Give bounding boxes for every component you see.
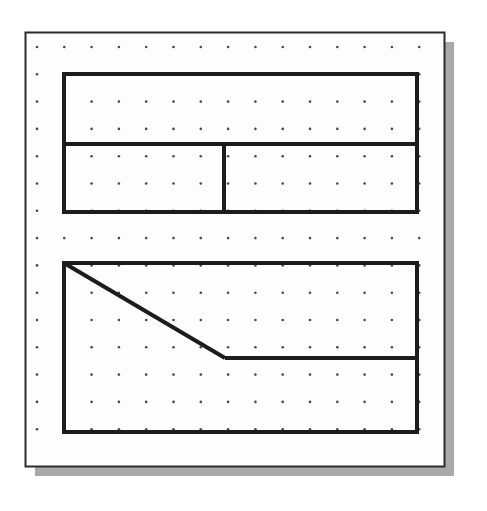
grid-dot (200, 373, 203, 376)
grid-dot (254, 237, 257, 240)
grid-dot (254, 100, 257, 103)
grid-dot (172, 46, 175, 49)
grid-dot (36, 346, 39, 349)
grid-dot (363, 319, 366, 322)
grid-dot (254, 182, 257, 185)
grid-dot (118, 182, 121, 185)
grid-dot (281, 346, 284, 349)
grid-dot (227, 291, 230, 294)
grid-dot (90, 155, 93, 158)
grid-dot (200, 237, 203, 240)
paper-sheet (26, 33, 445, 467)
grid-dot (36, 237, 39, 240)
grid-dot (418, 237, 421, 240)
grid-dot (227, 401, 230, 404)
grid-dot (363, 237, 366, 240)
grid-dot (391, 401, 394, 404)
grid-dot (391, 128, 394, 131)
grid-dot (145, 373, 148, 376)
grid-dot (254, 291, 257, 294)
grid-dot (363, 182, 366, 185)
grid-dot (145, 100, 148, 103)
paper-border (26, 33, 445, 467)
grid-dot (145, 155, 148, 158)
grid-dot (63, 46, 66, 49)
grid-dot (36, 291, 39, 294)
grid-dot (336, 373, 339, 376)
grid-dot (172, 100, 175, 103)
grid-dot (90, 100, 93, 103)
grid-dot (309, 291, 312, 294)
grid-dot (336, 128, 339, 131)
grid-dot (363, 155, 366, 158)
grid-dot (172, 128, 175, 131)
grid-dot (200, 319, 203, 322)
grid-dot (309, 155, 312, 158)
grid-dot (309, 128, 312, 131)
grid-dot (90, 346, 93, 349)
grid-dot (118, 46, 121, 49)
grid-dot (309, 401, 312, 404)
grid-dot (145, 319, 148, 322)
grid-dot (418, 46, 421, 49)
grid-dot (363, 401, 366, 404)
grid-dot (309, 237, 312, 240)
grid-dot (90, 182, 93, 185)
grid-dot (172, 155, 175, 158)
grid-dot (309, 319, 312, 322)
grid-dot (118, 100, 121, 103)
grid-dot (391, 46, 394, 49)
grid-dot (172, 182, 175, 185)
grid-dot (145, 291, 148, 294)
grid-dot (145, 401, 148, 404)
figure-stage (0, 0, 487, 511)
grid-dot (336, 46, 339, 49)
grid-dot (227, 237, 230, 240)
grid-dot (281, 155, 284, 158)
grid-dot (200, 291, 203, 294)
grid-dot (118, 319, 121, 322)
grid-dot (254, 373, 257, 376)
grid-dot (36, 46, 39, 49)
grid-dot (309, 182, 312, 185)
grid-dot (281, 291, 284, 294)
grid-dot (227, 319, 230, 322)
grid-dot (336, 401, 339, 404)
grid-dot (281, 182, 284, 185)
grid-dot (254, 401, 257, 404)
grid-dot (254, 319, 257, 322)
grid-dot (336, 237, 339, 240)
grid-dot (363, 373, 366, 376)
grid-dot (309, 346, 312, 349)
grid-dot (254, 155, 257, 158)
grid-dot (363, 346, 366, 349)
grid-dot (118, 346, 121, 349)
grid-dot (363, 291, 366, 294)
grid-dot (254, 128, 257, 131)
grid-dot (336, 319, 339, 322)
grid-dot (363, 128, 366, 131)
grid-dot (363, 100, 366, 103)
grid-dot (391, 182, 394, 185)
grid-dot (281, 128, 284, 131)
grid-dot (391, 100, 394, 103)
grid-dot (391, 373, 394, 376)
grid-dot (118, 373, 121, 376)
grid-dot (36, 73, 39, 76)
grid-dot (145, 46, 148, 49)
grid-dot (281, 319, 284, 322)
grid-dot (172, 401, 175, 404)
grid-dot (172, 346, 175, 349)
grid-dot (90, 319, 93, 322)
grid-dot (200, 155, 203, 158)
grid-dot (281, 401, 284, 404)
grid-dot (36, 210, 39, 213)
grid-dot (391, 291, 394, 294)
grid-dot (363, 46, 366, 49)
grid-dot (36, 264, 39, 267)
grid-dot (336, 291, 339, 294)
grid-dot (227, 128, 230, 131)
grid-dot (36, 155, 39, 158)
grid-dot (227, 373, 230, 376)
grid-dot (309, 100, 312, 103)
